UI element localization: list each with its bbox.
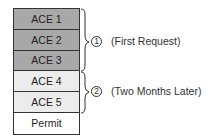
permit-row: Permit — [14, 113, 79, 134]
group-1-label: 1 (First Request) — [91, 35, 180, 47]
ace-4-row: ACE 4 — [14, 71, 79, 92]
circled-number-1-icon: 1 — [91, 36, 102, 47]
ace-stack: ACE 1 ACE 2 ACE 3 ACE 4 ACE 5 Permit — [13, 8, 80, 135]
brace-icons — [80, 0, 94, 137]
group-1-text: (First Request) — [111, 35, 180, 47]
circled-number-2-icon: 2 — [91, 86, 102, 97]
brace-1-icon — [81, 9, 89, 71]
group-2-label: 2 (Two Months Later) — [91, 85, 201, 97]
group-2-text: (Two Months Later) — [111, 85, 201, 97]
ace-5-row: ACE 5 — [14, 92, 79, 113]
ace-3-row: ACE 3 — [14, 51, 79, 72]
ace-1-row: ACE 1 — [14, 9, 79, 30]
ace-2-row: ACE 2 — [14, 30, 79, 51]
brace-2-icon — [81, 72, 89, 113]
